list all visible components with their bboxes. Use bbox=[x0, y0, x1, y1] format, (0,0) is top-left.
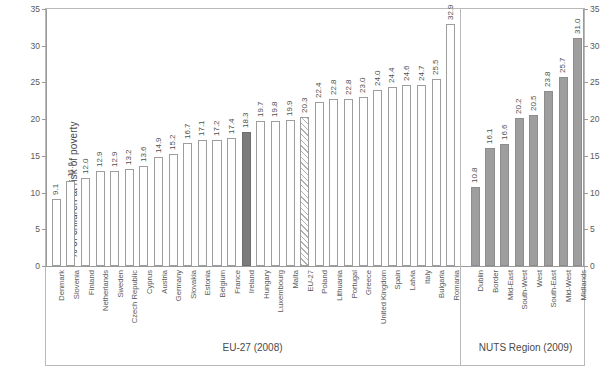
y-tick-label-r-20: 20 bbox=[590, 115, 599, 124]
x-category-label: Italy bbox=[424, 270, 432, 284]
bar[interactable] bbox=[52, 199, 61, 266]
bar-slot: 32.9 bbox=[444, 9, 459, 266]
x-category-label: Denmark bbox=[58, 270, 66, 301]
bar[interactable] bbox=[373, 90, 382, 266]
x-category-label: Germany bbox=[175, 270, 183, 301]
bar-value-label: 12.0 bbox=[81, 158, 89, 174]
bar-value-label: 13.2 bbox=[125, 150, 133, 166]
bar-slot: 20.2 bbox=[512, 9, 527, 266]
bar[interactable] bbox=[500, 144, 509, 266]
bar[interactable] bbox=[573, 38, 582, 266]
bar-slot: 31.0 bbox=[570, 9, 585, 266]
y-tick-l-0 bbox=[42, 266, 46, 267]
bar-value-label: 20.3 bbox=[300, 97, 308, 113]
y-tick-label-r-15: 15 bbox=[590, 152, 599, 161]
bar-slot: 24.6 bbox=[400, 9, 415, 266]
x-category-label: West bbox=[536, 270, 544, 287]
x-category-label: Midlands bbox=[580, 270, 588, 300]
bar-value-label: 24.4 bbox=[388, 67, 396, 83]
bar[interactable] bbox=[154, 157, 163, 266]
x-category-label: Ireland bbox=[248, 270, 256, 293]
bar-slot: 17.2 bbox=[210, 9, 225, 266]
bar[interactable] bbox=[315, 102, 324, 266]
bar-value-label: 25.5 bbox=[432, 59, 440, 75]
bar[interactable] bbox=[286, 120, 295, 266]
y-tick-l-20 bbox=[42, 119, 46, 120]
bar[interactable] bbox=[198, 140, 207, 266]
bar[interactable] bbox=[529, 115, 538, 266]
x-category-label: Lithuania bbox=[336, 270, 344, 301]
bar[interactable] bbox=[417, 85, 426, 266]
x-category-label: South-East bbox=[550, 270, 558, 308]
bar[interactable] bbox=[329, 99, 338, 266]
bar[interactable] bbox=[227, 138, 236, 266]
group-divider bbox=[460, 9, 461, 366]
bar[interactable] bbox=[183, 143, 192, 266]
bar[interactable] bbox=[81, 178, 90, 266]
y-tick-r-0 bbox=[584, 266, 588, 267]
bar-value-label: 24.7 bbox=[417, 65, 425, 81]
bar-slot: 24.0 bbox=[370, 9, 385, 266]
bar-value-label: 17.2 bbox=[213, 120, 221, 136]
bar-value-label: 16.7 bbox=[183, 124, 191, 140]
bar-value-label: 22.4 bbox=[315, 82, 323, 98]
x-category-label: Estonia bbox=[204, 270, 212, 295]
bar[interactable] bbox=[485, 148, 494, 266]
bar-slot: 12.9 bbox=[107, 9, 122, 266]
bar[interactable] bbox=[402, 85, 411, 266]
bar[interactable] bbox=[359, 97, 368, 266]
bar[interactable] bbox=[169, 154, 178, 266]
x-axis-category-labels: DenmarkSloveniaFinlandNetherlandsSwedenC… bbox=[46, 270, 584, 350]
bar-slot: 10.8 bbox=[468, 9, 483, 266]
bar-slot: 11.6 bbox=[64, 9, 79, 266]
bar[interactable] bbox=[256, 121, 265, 266]
bar[interactable] bbox=[66, 181, 75, 266]
bar-value-label: 20.2 bbox=[515, 98, 523, 114]
bar[interactable] bbox=[388, 87, 397, 266]
y-tick-label-l-35: 35 bbox=[31, 5, 40, 14]
bar-value-label: 23.0 bbox=[359, 78, 367, 94]
x-category-label: Mid-West bbox=[565, 270, 573, 302]
bar-slot: 24.4 bbox=[385, 9, 400, 266]
x-category-label: Mid-East bbox=[507, 270, 515, 300]
bar-value-label: 25.7 bbox=[559, 58, 567, 74]
x-category-label: Malta bbox=[292, 270, 300, 289]
y-tick-label-r-5: 5 bbox=[590, 225, 595, 234]
bar-slot: 19.7 bbox=[254, 9, 269, 266]
y-tick-l-35 bbox=[42, 9, 46, 10]
bar[interactable] bbox=[96, 171, 105, 266]
bar-value-label: 9.1 bbox=[52, 184, 60, 195]
bar[interactable] bbox=[432, 79, 441, 266]
bar-value-label: 20.5 bbox=[529, 96, 537, 112]
bar-value-label: 24.0 bbox=[373, 70, 381, 86]
bar-value-label: 19.9 bbox=[286, 100, 294, 116]
x-category-label: Spain bbox=[394, 270, 402, 289]
bar[interactable] bbox=[559, 77, 568, 266]
y-tick-l-30 bbox=[42, 46, 46, 47]
bar[interactable] bbox=[515, 118, 524, 266]
y-tick-label-r-30: 30 bbox=[590, 41, 599, 50]
bar[interactable] bbox=[242, 132, 251, 266]
bar-slot: 15.2 bbox=[166, 9, 181, 266]
bar[interactable] bbox=[212, 140, 221, 266]
bar[interactable] bbox=[344, 99, 353, 266]
bar[interactable] bbox=[471, 187, 480, 266]
bar[interactable] bbox=[544, 91, 553, 266]
bar[interactable] bbox=[300, 117, 309, 266]
bar-slot: 23.8 bbox=[541, 9, 556, 266]
bar[interactable] bbox=[110, 171, 119, 266]
x-category-label: Greece bbox=[365, 270, 373, 295]
bar[interactable] bbox=[125, 169, 134, 266]
bar[interactable] bbox=[446, 24, 455, 266]
bar-value-label: 23.8 bbox=[544, 72, 552, 88]
bar-value-label: 31.0 bbox=[573, 19, 581, 35]
bar[interactable] bbox=[271, 121, 280, 266]
bar-value-label: 32.9 bbox=[446, 5, 454, 21]
bar[interactable] bbox=[139, 166, 148, 266]
x-category-label: Austria bbox=[161, 270, 169, 294]
x-category-label: Border bbox=[492, 270, 500, 293]
bar-slot: 22.8 bbox=[341, 9, 356, 266]
bar-value-label: 13.6 bbox=[139, 147, 147, 163]
x-category-label: Netherlands bbox=[102, 270, 110, 311]
x-category-label: South-West bbox=[521, 270, 529, 310]
